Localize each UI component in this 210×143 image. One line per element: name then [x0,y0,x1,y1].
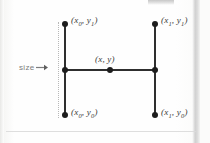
alignment-guide-line [58,22,59,118]
label-top-left: (x0, y1) [71,15,98,27]
paren-close: ) [184,15,187,25]
size-label: size [19,63,34,72]
scan-rule-bottom [6,131,196,132]
point-bottom-left [62,112,68,118]
point-top-right [152,21,158,27]
scan-artifact-top [148,0,174,5]
paren-close: ) [94,15,97,25]
label-bottom-right: (x1, y0) [161,107,188,119]
paren-close: ) [94,107,97,117]
point-top-left [62,21,68,27]
point-left-middle [62,67,68,73]
label-center: (x, y) [95,54,115,64]
arrow-right-icon [36,64,48,71]
geometry-figure: (x0, y1) (x1, y1) (x, y) (x0, y0) (x1, y… [0,0,210,143]
point-center [107,67,113,73]
paren-close: ) [184,107,187,117]
diagram-canvas: (x0, y1) (x1, y1) (x, y) (x0, y0) (x1, y… [0,0,210,143]
point-right-middle [152,67,158,73]
paren-close: ) [112,54,115,64]
label-top-right: (x1, y1) [161,15,188,27]
point-bottom-right [152,112,158,118]
label-bottom-left: (x0, y0) [71,107,98,119]
scan-artifact-right-edge [192,0,200,143]
size-annotation: size [19,63,48,72]
